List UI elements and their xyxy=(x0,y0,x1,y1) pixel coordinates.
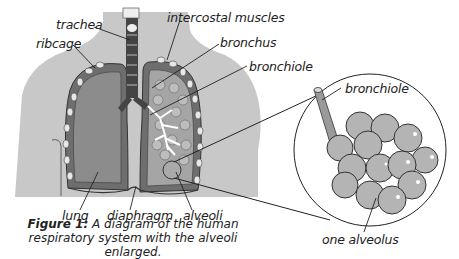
label-intercostal-muscles: intercostal muscles xyxy=(167,10,285,25)
label-bronchiole: bronchiole xyxy=(249,59,313,74)
figure-caption: Figure 1: A diagram of the human respira… xyxy=(8,217,258,259)
label-ribcage: ribcage xyxy=(36,36,81,51)
label-bronchus: bronchus xyxy=(220,35,276,50)
label-trachea: trachea xyxy=(56,17,102,32)
caption-number: Figure 1: xyxy=(27,217,88,231)
label-inset-bronchiole: bronchiole xyxy=(345,81,409,96)
label-one-alveolus: one alveolus xyxy=(322,232,399,247)
